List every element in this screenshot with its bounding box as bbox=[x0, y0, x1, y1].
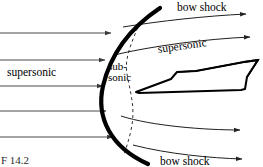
body-outline bbox=[136, 60, 258, 93]
figure-caption: F 14.2 bbox=[1, 155, 29, 166]
label-subsonic-line2: sonic bbox=[108, 72, 131, 83]
figure-root: bow shock bow shock supersonic supersoni… bbox=[0, 0, 263, 167]
label-bow-shock-bottom: bow shock bbox=[160, 156, 210, 167]
incoming-streamlines bbox=[0, 33, 113, 137]
bow-shock-diagram bbox=[0, 0, 263, 167]
sonic-line bbox=[124, 22, 140, 155]
label-bow-shock-top: bow shock bbox=[177, 2, 227, 14]
streamline-out-bottom-1 bbox=[121, 116, 240, 130]
label-subsonic: sub- sonic bbox=[108, 61, 131, 83]
label-supersonic-left: supersonic bbox=[7, 67, 56, 79]
